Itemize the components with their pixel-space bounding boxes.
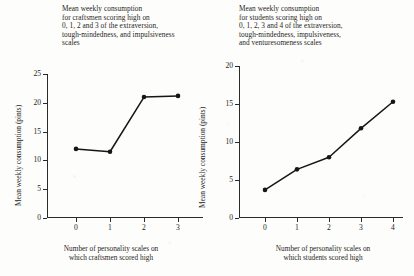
y-tick-0 [43, 218, 47, 219]
data-point-4 [391, 99, 396, 104]
chart-panel-students: Mean weekly consumption for students sco… [214, 0, 414, 276]
y-tick-label-10: 10 [225, 138, 233, 146]
x-tick-label-3: 3 [359, 224, 363, 232]
y-tick-label-20: 20 [33, 99, 41, 107]
data-point-3 [176, 94, 181, 99]
data-point-0 [74, 147, 79, 152]
y-tick-label-5: 5 [229, 176, 233, 184]
data-point-1 [108, 149, 113, 154]
y-tick-label-15: 15 [225, 100, 233, 108]
y-tick-0 [235, 218, 239, 219]
x-tick-label-0: 0 [263, 224, 267, 232]
y-axis-label-craftsmen: Mean weekly consumption (pints) [14, 105, 23, 206]
x-tick-1 [297, 218, 298, 222]
chart-title-students: Mean weekly consumption for students sco… [239, 5, 414, 48]
data-point-3 [359, 126, 364, 131]
x-tick-label-4: 4 [391, 224, 395, 232]
x-tick-3 [361, 218, 362, 222]
x-tick-label-2: 2 [327, 224, 331, 232]
x-tick-label-2: 2 [142, 224, 146, 232]
y-tick-label-0: 0 [37, 214, 41, 222]
y-tick-label-5: 5 [37, 185, 41, 193]
x-tick-label-3: 3 [176, 224, 180, 232]
x-tick-1 [110, 218, 111, 222]
data-point-2 [327, 155, 332, 160]
data-point-1 [295, 167, 300, 172]
plot-area-craftsmen: 0 5 10 15 20 25 0 1 2 3 [47, 74, 203, 218]
x-tick-0 [265, 218, 266, 222]
data-series-students [239, 66, 403, 218]
figure-page: Mean weekly consumption for craftsmen sc… [0, 0, 414, 276]
x-tick-3 [178, 218, 179, 222]
x-tick-label-1: 1 [295, 224, 299, 232]
y-tick-label-15: 15 [33, 128, 41, 136]
y-tick-label-20: 20 [225, 62, 233, 70]
x-axis-label-students: Number of personality scales on which st… [234, 245, 412, 263]
chart-panel-craftsmen: Mean weekly consumption for craftsmen sc… [0, 0, 214, 276]
y-tick-label-0: 0 [229, 214, 233, 222]
series-polyline-craftsmen [76, 96, 178, 152]
series-polyline-students [265, 102, 393, 190]
y-axis-label-students: Mean weekly consumption (pints) [198, 107, 207, 208]
chart-title-craftsmen: Mean weekly consumption for craftsmen sc… [62, 5, 218, 48]
x-tick-label-0: 0 [74, 224, 78, 232]
x-tick-label-1: 1 [108, 224, 112, 232]
x-tick-4 [393, 218, 394, 222]
y-tick-label-10: 10 [33, 157, 41, 165]
x-tick-2 [329, 218, 330, 222]
data-point-0 [263, 188, 268, 193]
y-tick-label-25: 25 [33, 70, 41, 78]
data-point-2 [142, 95, 147, 100]
x-tick-0 [76, 218, 77, 222]
data-series-craftsmen [47, 74, 203, 218]
x-tick-2 [144, 218, 145, 222]
plot-area-students: 0 5 10 15 20 0 1 2 3 4 [239, 66, 403, 218]
x-axis-label-craftsmen: Number of personality scales on which cr… [26, 245, 196, 263]
